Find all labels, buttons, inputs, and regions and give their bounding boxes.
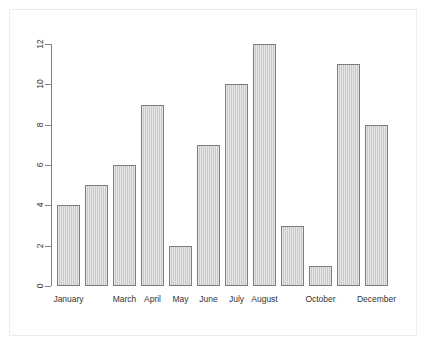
x-axis-label-january: January [53,294,83,305]
bar-april[interactable] [141,105,164,287]
x-axis-label-march: March [113,294,137,305]
bar-december[interactable] [365,125,388,286]
bar-may[interactable] [169,246,192,286]
bar-august[interactable] [253,44,276,286]
y-axis-tick-label-6: 6 [36,163,45,168]
bar-february[interactable] [85,185,108,286]
x-axis-label-june: June [199,294,217,305]
x-axis-label-december: December [357,294,396,305]
bar-november[interactable] [337,64,360,286]
y-axis-tick-4 [45,205,51,206]
y-axis-tick-0 [45,286,51,287]
y-axis-tick-label-0: 0 [36,284,45,289]
y-axis-tick-label-10: 10 [36,80,45,89]
x-axis-label-april: April [144,294,161,305]
y-axis-tick-label-4: 4 [36,203,45,208]
plot-device: 0 2 4 6 8 10 12 January [0,0,426,345]
y-axis-tick-label-2: 2 [36,243,45,248]
bar-chart-plot-area: 0 2 4 6 8 10 12 January [0,0,426,345]
y-axis-tick-2 [45,246,51,247]
bar-october[interactable] [309,266,332,286]
y-axis-tick-12 [45,44,51,45]
x-axis-label-may: May [172,294,188,305]
bar-january[interactable] [57,205,80,286]
x-axis-label-october: October [305,294,335,305]
x-axis-label-august: August [251,294,277,305]
y-axis-tick-10 [45,84,51,85]
y-axis-tick-6 [45,165,51,166]
y-axis-tick-8 [45,125,51,126]
bar-june[interactable] [197,145,220,286]
y-axis-tick-label-12: 12 [36,39,45,48]
bar-september[interactable] [281,226,304,287]
bar-july[interactable] [225,84,248,286]
x-axis-label-july: July [229,294,244,305]
y-axis-line [51,44,52,286]
y-axis-tick-label-8: 8 [36,122,45,127]
bar-march[interactable] [113,165,136,286]
